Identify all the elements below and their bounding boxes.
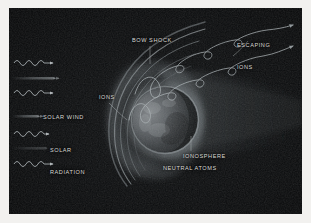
label-ionosphere: IONOSPHERE — [183, 153, 226, 160]
space-scene: BOW SHOCK ESCAPING IONS IONS IONOSPHERE … — [9, 8, 302, 214]
label-solar-wind: SOLAR WIND — [43, 114, 84, 121]
label-solar-radiation-line2: RADIATION — [50, 169, 85, 176]
label-neutral-atoms: NEUTRAL ATOMS — [163, 165, 217, 172]
figure-container: BOW SHOCK ESCAPING IONS IONS IONOSPHERE … — [0, 0, 311, 223]
label-solar-radiation-line1: SOLAR — [50, 147, 85, 154]
label-escaping-ions-line2: IONS — [237, 64, 270, 71]
label-bow-shock: BOW SHOCK — [132, 37, 172, 44]
label-escaping-ions-line1: ESCAPING — [237, 42, 270, 49]
label-solar-radiation: SOLAR RADIATION — [50, 133, 85, 191]
label-ions: IONS — [99, 94, 115, 101]
label-escaping-ions: ESCAPING IONS — [237, 28, 270, 86]
